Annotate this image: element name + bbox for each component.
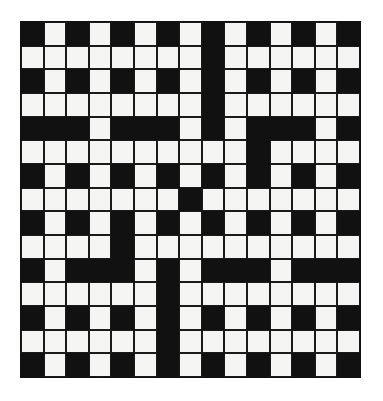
grid-cell-letter[interactable] — [315, 69, 338, 93]
grid-cell-letter[interactable] — [337, 282, 360, 306]
grid-cell-letter[interactable] — [315, 235, 338, 259]
grid-cell-letter[interactable] — [66, 282, 89, 306]
grid-cell-letter[interactable] — [44, 235, 67, 259]
grid-cell-letter[interactable] — [21, 46, 44, 70]
grid-cell-letter[interactable] — [202, 282, 225, 306]
grid-cell-letter[interactable] — [337, 235, 360, 259]
grid-cell-letter[interactable] — [44, 93, 67, 117]
grid-cell-letter[interactable] — [44, 353, 67, 377]
grid-cell-letter[interactable] — [224, 164, 247, 188]
grid-cell-letter[interactable] — [270, 259, 293, 283]
grid-cell-letter[interactable] — [89, 69, 112, 93]
grid-cell-letter[interactable] — [337, 188, 360, 212]
grid-cell-letter[interactable] — [44, 140, 67, 164]
grid-cell-letter[interactable] — [270, 282, 293, 306]
grid-cell-letter[interactable] — [134, 188, 157, 212]
grid-cell-letter[interactable] — [21, 330, 44, 354]
grid-cell-letter[interactable] — [292, 282, 315, 306]
grid-cell-letter[interactable] — [247, 46, 270, 70]
grid-cell-letter[interactable] — [247, 282, 270, 306]
grid-cell-letter[interactable] — [134, 353, 157, 377]
grid-cell-letter[interactable] — [179, 69, 202, 93]
grid-cell-letter[interactable] — [134, 46, 157, 70]
grid-cell-letter[interactable] — [111, 282, 134, 306]
grid-cell-letter[interactable] — [179, 282, 202, 306]
grid-cell-letter[interactable] — [292, 330, 315, 354]
grid-cell-letter[interactable] — [224, 282, 247, 306]
grid-cell-letter[interactable] — [337, 140, 360, 164]
grid-cell-letter[interactable] — [44, 282, 67, 306]
grid-cell-letter[interactable] — [66, 140, 89, 164]
grid-cell-letter[interactable] — [270, 353, 293, 377]
grid-cell-letter[interactable] — [44, 211, 67, 235]
grid-cell-letter[interactable] — [202, 235, 225, 259]
grid-cell-letter[interactable] — [315, 188, 338, 212]
grid-cell-letter[interactable] — [89, 211, 112, 235]
grid-cell-letter[interactable] — [179, 140, 202, 164]
grid-cell-letter[interactable] — [44, 69, 67, 93]
grid-cell-letter[interactable] — [21, 188, 44, 212]
grid-cell-letter[interactable] — [292, 93, 315, 117]
grid-cell-letter[interactable] — [89, 164, 112, 188]
grid-cell-letter[interactable] — [44, 330, 67, 354]
grid-cell-letter[interactable] — [315, 211, 338, 235]
grid-cell-letter[interactable] — [224, 140, 247, 164]
grid-cell-letter[interactable] — [134, 164, 157, 188]
grid-cell-letter[interactable] — [337, 93, 360, 117]
grid-cell-letter[interactable] — [315, 140, 338, 164]
grid-cell-letter[interactable] — [270, 93, 293, 117]
grid-cell-letter[interactable] — [111, 93, 134, 117]
grid-cell-letter[interactable] — [179, 259, 202, 283]
grid-cell-letter[interactable] — [292, 140, 315, 164]
grid-cell-letter[interactable] — [66, 188, 89, 212]
grid-cell-letter[interactable] — [247, 235, 270, 259]
grid-cell-letter[interactable] — [179, 164, 202, 188]
grid-cell-letter[interactable] — [157, 188, 180, 212]
grid-cell-letter[interactable] — [21, 235, 44, 259]
grid-cell-letter[interactable] — [315, 117, 338, 141]
grid-cell-letter[interactable] — [315, 353, 338, 377]
grid-cell-letter[interactable] — [224, 330, 247, 354]
grid-cell-letter[interactable] — [270, 211, 293, 235]
crossword-grid[interactable] — [20, 21, 361, 378]
grid-cell-letter[interactable] — [315, 164, 338, 188]
grid-cell-letter[interactable] — [179, 46, 202, 70]
grid-cell-letter[interactable] — [44, 306, 67, 330]
grid-cell-letter[interactable] — [179, 330, 202, 354]
grid-cell-letter[interactable] — [21, 93, 44, 117]
grid-cell-letter[interactable] — [292, 188, 315, 212]
grid-cell-letter[interactable] — [89, 282, 112, 306]
grid-cell-letter[interactable] — [44, 164, 67, 188]
grid-cell-letter[interactable] — [179, 235, 202, 259]
grid-cell-letter[interactable] — [89, 117, 112, 141]
grid-cell-letter[interactable] — [44, 259, 67, 283]
grid-cell-letter[interactable] — [134, 140, 157, 164]
grid-cell-letter[interactable] — [315, 22, 338, 46]
grid-cell-letter[interactable] — [270, 306, 293, 330]
grid-cell-letter[interactable] — [224, 306, 247, 330]
grid-cell-letter[interactable] — [89, 330, 112, 354]
grid-cell-letter[interactable] — [89, 22, 112, 46]
grid-cell-letter[interactable] — [224, 46, 247, 70]
grid-cell-letter[interactable] — [224, 93, 247, 117]
grid-cell-letter[interactable] — [134, 93, 157, 117]
grid-cell-letter[interactable] — [157, 93, 180, 117]
grid-cell-letter[interactable] — [224, 235, 247, 259]
grid-cell-letter[interactable] — [111, 188, 134, 212]
grid-cell-letter[interactable] — [44, 46, 67, 70]
grid-cell-letter[interactable] — [315, 46, 338, 70]
grid-cell-letter[interactable] — [202, 140, 225, 164]
grid-cell-letter[interactable] — [179, 93, 202, 117]
grid-cell-letter[interactable] — [224, 69, 247, 93]
grid-cell-letter[interactable] — [270, 46, 293, 70]
grid-cell-letter[interactable] — [89, 353, 112, 377]
grid-cell-letter[interactable] — [247, 330, 270, 354]
grid-cell-letter[interactable] — [270, 330, 293, 354]
grid-cell-letter[interactable] — [247, 93, 270, 117]
grid-cell-letter[interactable] — [89, 235, 112, 259]
grid-cell-letter[interactable] — [111, 46, 134, 70]
grid-cell-letter[interactable] — [157, 46, 180, 70]
grid-cell-letter[interactable] — [270, 22, 293, 46]
grid-cell-letter[interactable] — [292, 235, 315, 259]
grid-cell-letter[interactable] — [89, 140, 112, 164]
